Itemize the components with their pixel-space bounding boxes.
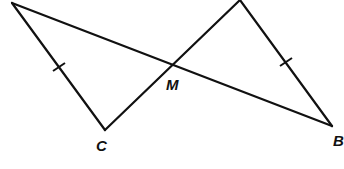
point-label-b: B (333, 133, 344, 148)
point-label-c: C (96, 138, 107, 153)
point-label-m: M (166, 77, 179, 92)
segment-c-d (105, 0, 240, 130)
congruence-tick-mark-ac (53, 63, 65, 71)
